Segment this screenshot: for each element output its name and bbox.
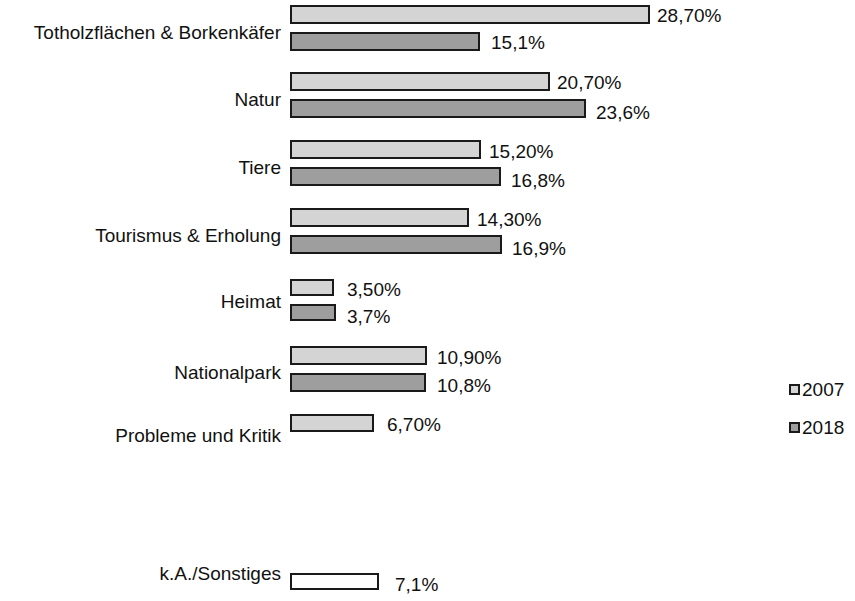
bar-natur-2018 — [290, 99, 586, 118]
bar-natur-2007 — [290, 72, 550, 91]
legend-item-2007: 2007 — [789, 370, 855, 408]
legend-label-2007: 2007 — [802, 380, 844, 399]
value-label-nationalpark-2018: 10,8% — [437, 376, 491, 396]
value-label-tiere-2007: 15,20% — [489, 142, 553, 162]
value-label-tourismus-erholung-2018: 16,9% — [512, 239, 566, 259]
bar-heimat-2018 — [290, 304, 336, 321]
bar-totholzflaechen-2018 — [290, 32, 480, 51]
legend-item-2018: 2018 — [789, 408, 855, 446]
category-label-nationalpark: Nationalpark — [0, 362, 281, 384]
value-label-nationalpark-2007: 10,90% — [437, 348, 501, 368]
category-label-natur: Natur — [0, 89, 281, 111]
value-label-totholzflaechen-2007: 28,70% — [657, 6, 721, 26]
category-label-probleme-und-kritik: Probleme und Kritik — [0, 425, 281, 447]
value-label-totholzflaechen-2018: 15,1% — [491, 33, 545, 53]
category-label-totholzflaechen: Totholzflächen & Borkenkäfer — [0, 22, 281, 44]
value-label-heimat-2007: 3,50% — [347, 280, 401, 300]
bar-ka-sonstiges — [290, 573, 379, 590]
bar-tourismus-erholung-2018 — [290, 235, 502, 254]
value-label-tourismus-erholung-2007: 14,30% — [477, 210, 541, 230]
bar-tiere-2007 — [290, 140, 481, 159]
bar-probleme-und-kritik-2007 — [290, 414, 374, 432]
value-label-natur-2018: 23,6% — [596, 103, 650, 123]
bar-chart: Totholzflächen & Borkenkäfer Natur Tiere… — [0, 0, 855, 601]
bar-nationalpark-2018 — [290, 373, 426, 392]
chart-legend: 2007 2018 — [789, 370, 855, 446]
bar-totholzflaechen-2007 — [290, 5, 650, 24]
value-label-probleme-und-kritik-2007: 6,70% — [387, 415, 441, 435]
value-label-heimat-2018: 3,7% — [347, 307, 390, 327]
bar-tourismus-erholung-2007 — [290, 208, 469, 227]
category-label-ka-sonstiges: k.A./Sonstiges — [0, 563, 281, 585]
legend-swatch-2018-icon — [789, 422, 800, 433]
bar-heimat-2007 — [290, 279, 334, 296]
value-label-ka-sonstiges: 7,1% — [395, 575, 438, 595]
legend-label-2018: 2018 — [802, 418, 844, 437]
legend-swatch-2007-icon — [789, 384, 800, 395]
category-label-heimat: Heimat — [0, 291, 281, 313]
bar-tiere-2018 — [290, 167, 501, 186]
category-label-tourismus-erholung: Tourismus & Erholung — [0, 225, 281, 247]
bar-nationalpark-2007 — [290, 346, 427, 365]
value-label-natur-2007: 20,70% — [557, 73, 621, 93]
category-label-tiere: Tiere — [0, 157, 281, 179]
value-label-tiere-2018: 16,8% — [511, 171, 565, 191]
